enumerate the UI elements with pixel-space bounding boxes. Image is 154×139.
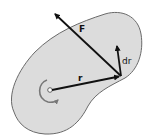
rigid-body <box>11 12 141 134</box>
axis-of-rotation <box>48 88 53 93</box>
label-force: F <box>79 24 85 34</box>
label-position: r <box>78 73 83 83</box>
label-displacement: dr <box>122 56 132 66</box>
torque-diagram: F r dr <box>0 0 154 139</box>
